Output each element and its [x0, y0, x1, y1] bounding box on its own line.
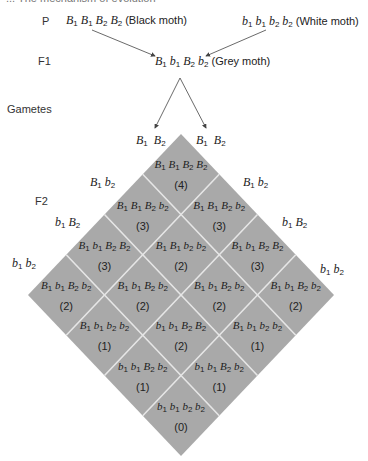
f2-cell: B1 b1 b2 b2(1) [65, 319, 145, 352]
f2-cell: B1 b1 B2 b2(2) [26, 279, 106, 312]
arrows [92, 30, 266, 128]
f2-cell-dominant-count: (3) [103, 219, 183, 231]
f2-cell-dominant-count: (2) [26, 300, 106, 312]
f2-cell-dominant-count: (3) [65, 259, 145, 271]
f2-cell-dominant-count: (2) [103, 300, 183, 312]
f2-cell: B1 B1 b2 b2(2) [141, 238, 221, 271]
f2-cell-dominant-count: (3) [179, 219, 259, 231]
f2-cell-genotype: B1 b1 B2 b2 [179, 279, 259, 293]
f2-cell: B1 b1 B2 B2(3) [218, 238, 298, 271]
f2-cell-dominant-count: (1) [103, 380, 183, 392]
f2-cell-genotype: B1 b1 B2 B2 [65, 238, 145, 252]
f2-cell-genotype: b1 b1 b2 b2 [141, 399, 221, 413]
f2-cell-genotype: B1 b1 B2 b2 [256, 279, 336, 293]
f2-cell: B1 b1 B2 b2(2) [103, 279, 183, 312]
f2-cell: B1 B1 B2 b2(3) [179, 198, 259, 231]
f2-cell-genotype: B1 b1 B2 b2 [103, 279, 183, 293]
f2-cell-dominant-count: (3) [218, 259, 298, 271]
f2-cell: b1 b1 B2 B2(2) [141, 319, 221, 352]
f2-cell-genotype: b1 b1 B2 b2 [103, 359, 183, 373]
gamete-right-2: b1 B2 [282, 215, 307, 230]
f2-cell: B1 b1 B2 b2(2) [256, 279, 336, 312]
f2-cell-dominant-count: (2) [141, 340, 221, 352]
gamete-left-2: b1 B2 [55, 215, 80, 230]
gamete-top-right: B1 B2 [196, 133, 226, 148]
f2-cell-genotype: B1 B1 B2 b2 [179, 198, 259, 212]
f2-cell: b1 b1 b2 b2(0) [141, 399, 221, 432]
f2-cell-dominant-count: (2) [141, 259, 221, 271]
f2-cell: b1 b1 B2 b2(1) [179, 359, 259, 392]
arrow-f1-to-gamete-right [180, 78, 206, 128]
f2-cell: B1 b1 B2 b2(2) [179, 279, 259, 312]
f2-cell: B1 b1 b2 b2(1) [218, 319, 298, 352]
gamete-right-3: b1 b2 [320, 262, 344, 277]
f2-cell-dominant-count: (1) [179, 380, 259, 392]
arrow-black-to-f1 [92, 30, 155, 56]
f2-cell-genotype: b1 b1 B2 B2 [141, 319, 221, 333]
f2-cell: b1 b1 B2 b2(1) [103, 359, 183, 392]
f2-cell-genotype: B1 B1 B2 b2 [103, 198, 183, 212]
f2-cell-genotype: B1 b1 B2 B2 [218, 238, 298, 252]
gamete-right-1: B1 b2 [243, 175, 268, 190]
gamete-top-left: B1 B2 [136, 133, 166, 148]
f2-cell-genotype: B1 B1 B2 B2 [141, 158, 221, 172]
f2-cell-dominant-count: (1) [65, 340, 145, 352]
f2-cell-genotype: B1 b1 b2 b2 [65, 319, 145, 333]
gamete-left-1: B1 b2 [90, 175, 115, 190]
arrow-white-to-f1 [206, 30, 266, 56]
f2-cell: B1 b1 B2 B2(3) [65, 238, 145, 271]
arrow-f1-to-gamete-left [155, 78, 180, 128]
f2-cell-dominant-count: (0) [141, 420, 221, 432]
f2-cell-genotype: B1 B1 b2 b2 [141, 238, 221, 252]
f2-cell-dominant-count: (2) [256, 300, 336, 312]
f2-cell-dominant-count: (1) [218, 340, 298, 352]
gamete-left-3: b1 b2 [12, 256, 36, 271]
f2-cell: B1 B1 B2 B2(4) [141, 158, 221, 191]
f2-cell-genotype: b1 b1 B2 b2 [179, 359, 259, 373]
f2-cell-dominant-count: (4) [141, 179, 221, 191]
f2-cell-dominant-count: (2) [179, 300, 259, 312]
f2-cell-genotype: B1 b1 B2 b2 [26, 279, 106, 293]
f2-cell: B1 B1 B2 b2(3) [103, 198, 183, 231]
f2-cell-genotype: B1 b1 b2 b2 [218, 319, 298, 333]
